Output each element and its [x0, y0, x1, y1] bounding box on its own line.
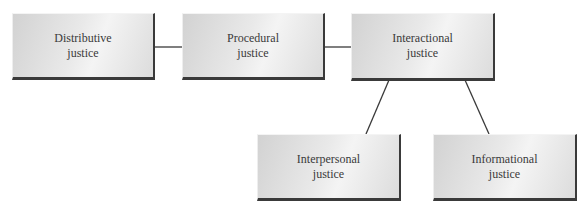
- node-label: Interactional justice: [392, 31, 453, 61]
- node-label: Informational justice: [472, 152, 538, 182]
- node-label: Procedural justice: [227, 31, 279, 61]
- node-interactional-justice: Interactional justice: [351, 13, 495, 81]
- node-interpersonal-justice: Interpersonal justice: [257, 134, 401, 201]
- edge-interactional-interpersonal: [366, 80, 389, 134]
- node-label: Interpersonal justice: [297, 152, 360, 182]
- node-procedural-justice: Procedural justice: [182, 13, 325, 80]
- node-informational-justice: Informational justice: [433, 134, 577, 201]
- justice-diagram: Distributive justice Procedural justice …: [0, 0, 588, 213]
- edge-interactional-informational: [465, 80, 489, 134]
- node-label: Distributive justice: [54, 31, 111, 61]
- node-distributive-justice: Distributive justice: [12, 13, 155, 80]
